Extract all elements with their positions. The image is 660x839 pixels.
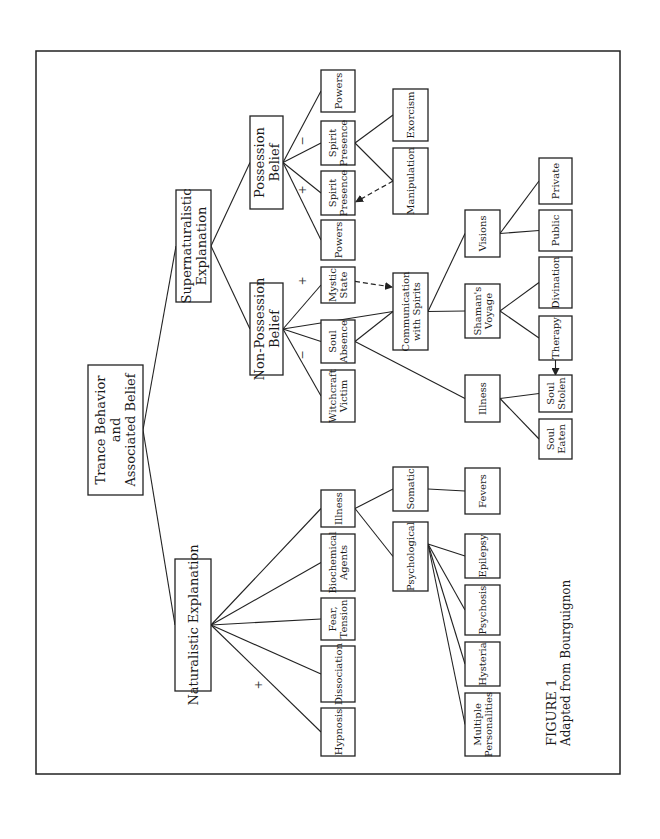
plus-sign: + xyxy=(296,276,309,285)
node-label: Supernaturalistic xyxy=(179,189,194,304)
node-label: Absence xyxy=(338,320,349,364)
node-somatic: Somatic xyxy=(393,467,428,511)
edge-possession-to-powers-neg xyxy=(283,91,321,163)
edge-illness-super-to-soul-eaten xyxy=(500,399,539,440)
edge-root-to-naturalistic xyxy=(143,430,175,625)
node-label: Exorcism xyxy=(405,91,416,139)
node-label: Victim xyxy=(338,379,349,413)
node-label: Belief xyxy=(267,309,282,348)
node-therapy: Therapy xyxy=(539,316,572,360)
node-label: Powers xyxy=(333,222,344,259)
edge-possession-to-powers-pos xyxy=(283,163,321,241)
edge-root-to-supernaturalistic xyxy=(143,246,176,430)
node-label: Stolen xyxy=(556,377,567,410)
node-visions: Visions xyxy=(465,210,500,257)
node-label: Epilepsy xyxy=(477,534,488,578)
node-label: Trance Behavior xyxy=(93,375,108,485)
edge-spirit-presence-neg-to-exorcism xyxy=(355,115,393,143)
node-root: Trance BehaviorandAssociated Belief xyxy=(88,365,143,495)
node-label: Divination xyxy=(550,256,561,309)
edge-naturalistic-to-dissociation xyxy=(211,625,321,674)
edge-naturalistic-to-biochemical-agents xyxy=(211,563,321,626)
node-soul-stolen: SoulStolen xyxy=(539,375,572,412)
node-label: Tension xyxy=(338,599,349,639)
node-label: Soul xyxy=(545,428,556,451)
edge-psychological-to-multiple-personalities xyxy=(428,544,465,725)
figure-caption: FIGURE 1 Adapted from Bourguignon xyxy=(544,579,573,747)
node-spirit-presence-neg: SpiritPresence xyxy=(321,120,355,167)
edge-communication-to-visions xyxy=(428,234,465,312)
edge-mystic-state-to-communication xyxy=(355,281,392,287)
node-powers-neg: Powers xyxy=(321,70,355,112)
node-label: Belief xyxy=(267,142,282,181)
node-soul-absence: SoulAbsence xyxy=(321,320,355,364)
edge-communication-to-shamans-voyage xyxy=(428,311,465,312)
node-witchcraft-victim: WitchcraftVictim xyxy=(321,369,355,422)
node-communication: Communicationwith Spirits xyxy=(393,271,428,352)
node-label: Hypnosis xyxy=(333,709,344,756)
node-naturalistic: Naturalistic Explanation xyxy=(175,544,211,706)
node-soul-eaten: SoulEaten xyxy=(539,419,572,459)
node-label: Dissociation xyxy=(333,642,344,704)
edge-somatic-to-fevers xyxy=(428,489,465,491)
node-label: Presence xyxy=(338,120,349,167)
plus-sign: + xyxy=(296,185,309,194)
caption-title: FIGURE 1 xyxy=(544,679,559,746)
edge-manipulation-to-spirit-presence-pos xyxy=(356,181,393,202)
node-label: Therapy xyxy=(550,317,561,359)
node-label: Associated Belief xyxy=(123,372,138,487)
edge-illness-nat-to-psychological xyxy=(355,509,393,557)
edge-illness-nat-to-somatic xyxy=(355,489,393,509)
node-public: Public xyxy=(539,210,572,251)
signs-layer: −++−+ xyxy=(252,136,309,689)
node-label: Visions xyxy=(477,215,488,252)
node-label: Witchcraft xyxy=(327,369,338,422)
node-manipulation: Manipulation xyxy=(393,147,428,215)
node-illness-nat: Illness xyxy=(321,490,355,527)
edge-supernaturalistic-to-non-possession xyxy=(211,246,250,329)
node-fevers: Fevers xyxy=(465,468,500,514)
plus-sign: + xyxy=(252,680,265,689)
node-label: Soul xyxy=(327,330,338,353)
node-label: with Spirits xyxy=(411,282,422,341)
trance-belief-diagram: Trance BehaviorandAssociated BeliefSuper… xyxy=(0,0,660,839)
node-label: Fear, xyxy=(327,606,338,631)
node-label: Multiple xyxy=(472,703,483,746)
node-label: Illness xyxy=(477,382,488,415)
node-powers-pos: Powers xyxy=(321,220,355,260)
edge-naturalistic-to-hypnosis xyxy=(211,625,321,732)
node-label: Private xyxy=(550,163,561,199)
edge-soul-absence-to-communication xyxy=(355,312,393,342)
node-epilepsy: Epilepsy xyxy=(465,534,500,578)
edge-naturalistic-to-fear-tension xyxy=(211,619,321,625)
node-possession: PossessionBelief xyxy=(250,116,283,209)
node-label: State xyxy=(338,272,349,299)
node-private: Private xyxy=(539,158,572,204)
node-label: Personalities xyxy=(483,692,494,757)
node-label: Explanation xyxy=(194,206,209,285)
node-label: Mystic xyxy=(327,268,338,302)
node-label: Psychosis xyxy=(477,586,488,635)
node-label: Somatic xyxy=(405,468,416,510)
edge-psychological-to-hysteria xyxy=(428,544,465,664)
edge-supernaturalistic-to-possession xyxy=(211,163,250,247)
node-divination: Divination xyxy=(539,256,572,309)
node-label: Fevers xyxy=(477,474,488,508)
node-label: Presence xyxy=(338,170,349,217)
node-hysteria: Hysteria xyxy=(465,642,500,686)
node-label: Illness xyxy=(333,492,344,525)
node-label: Eaten xyxy=(556,424,567,454)
edge-spirit-presence-neg-to-manipulation xyxy=(355,143,393,181)
node-label: Hysteria xyxy=(477,642,488,685)
edge-visions-to-public xyxy=(500,231,539,234)
node-label: Biochemical xyxy=(327,532,338,594)
node-psychosis: Psychosis xyxy=(465,585,500,635)
node-supernaturalistic: SupernaturalisticExplanation xyxy=(176,189,211,304)
node-hypnosis: Hypnosis xyxy=(321,708,355,756)
edge-shamans-voyage-to-divination xyxy=(500,283,539,312)
node-spirit-presence-pos: SpiritPresence xyxy=(321,170,355,217)
node-mystic-state: MysticState xyxy=(321,267,355,303)
node-label: Public xyxy=(550,214,561,246)
edge-naturalistic-to-illness-nat xyxy=(211,509,321,626)
node-label: Agents xyxy=(338,545,349,581)
